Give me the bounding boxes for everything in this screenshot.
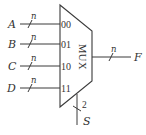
input-c-width: n (31, 53, 36, 63)
output-f-width: n (111, 44, 116, 54)
mux-diagram: MUX n A 00 n B 01 n C 10 n D 11 n F (0, 0, 146, 135)
port-01-label: 01 (61, 39, 71, 50)
input-b-width: n (31, 32, 36, 42)
input-b-label: B (7, 38, 16, 51)
input-d-label: D (6, 82, 16, 95)
port-00-label: 00 (61, 19, 71, 30)
output-f-label: F (133, 51, 142, 64)
select-s: 2 S (73, 94, 91, 128)
input-a-label: A (7, 18, 16, 31)
port-11-label: 11 (61, 83, 71, 94)
input-c-label: C (8, 60, 17, 73)
select-s-label: S (83, 115, 91, 128)
select-s-width: 2 (82, 100, 87, 110)
input-a-width: n (31, 11, 36, 21)
mux-label: MUX (77, 44, 88, 70)
port-10-label: 10 (61, 61, 71, 72)
input-d-width: n (31, 75, 36, 85)
output-f: n F (92, 44, 142, 64)
